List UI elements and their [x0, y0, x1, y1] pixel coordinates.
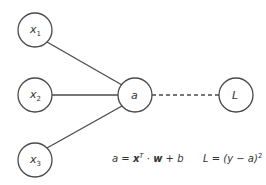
loss-formula: L = (y − a)2 — [203, 152, 262, 164]
node-x1-subscript: 1 — [37, 30, 41, 38]
node-x1: x1 — [18, 13, 52, 47]
node-x3: x3 — [18, 143, 52, 177]
node-x2-subscript: 2 — [37, 95, 41, 103]
node-L: L — [219, 78, 253, 112]
edge-x1-a — [47, 42, 122, 85]
node-L-label: L — [232, 89, 238, 102]
node-x2: x2 — [18, 78, 52, 112]
node-x3-subscript: 3 — [37, 160, 41, 168]
activation-formula: a = xT · w + b — [112, 152, 184, 164]
edge-x3-a — [47, 106, 122, 148]
node-a-label: a — [131, 89, 138, 102]
neural-network-diagram: x1 x2 x3 a L a = xT · w + b L = (y − a)2 — [0, 0, 266, 185]
node-a: a — [118, 78, 152, 112]
